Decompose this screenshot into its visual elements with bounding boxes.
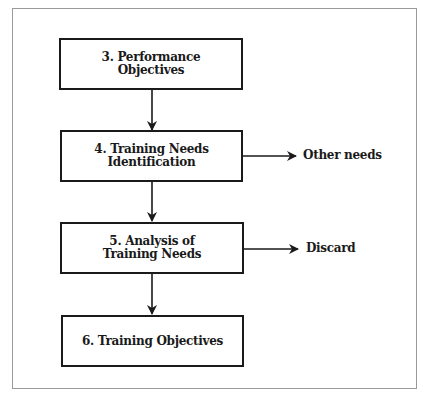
output-discard: Discard [306, 241, 355, 255]
node-label: 4. Training Needs Identification [94, 143, 208, 169]
node-performance-objectives: 3. Performance Objectives [59, 38, 243, 90]
node-label: 5. Analysis of Training Needs [103, 235, 201, 261]
node-analysis-of-training-needs: 5. Analysis of Training Needs [60, 222, 244, 274]
node-training-needs-identification: 4. Training Needs Identification [60, 130, 243, 182]
node-training-objectives: 6. Training Objectives [61, 315, 244, 367]
output-other-needs: Other needs [303, 148, 382, 162]
node-label: 3. Performance Objectives [102, 51, 201, 77]
node-label: 6. Training Objectives [82, 335, 223, 348]
